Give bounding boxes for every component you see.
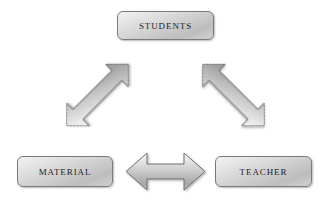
node-students-label: STUDENTS: [139, 21, 192, 31]
connector-students-teacher[interactable]: [191, 53, 275, 137]
connector-material-teacher[interactable]: [126, 153, 205, 190]
node-teacher[interactable]: TEACHER: [215, 156, 312, 187]
node-material-label: MATERIAL: [39, 167, 92, 177]
node-students[interactable]: STUDENTS: [117, 11, 214, 40]
diagram-canvas: STUDENTS MATERIAL TEACHER: [0, 0, 331, 202]
connector-students-material[interactable]: [55, 53, 139, 137]
node-material[interactable]: MATERIAL: [17, 156, 113, 187]
node-teacher-label: TEACHER: [240, 167, 288, 177]
